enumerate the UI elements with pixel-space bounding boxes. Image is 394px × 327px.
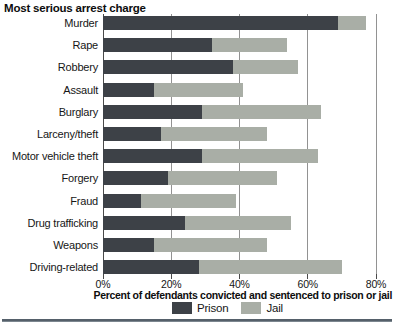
- bar-segment-jail: [154, 238, 267, 252]
- category-label: Rape: [0, 39, 103, 51]
- bar-segment-prison: [103, 171, 168, 185]
- bar-track: [103, 238, 394, 252]
- chart-row: Robbery: [0, 56, 394, 78]
- category-label: Driving-related: [0, 261, 103, 273]
- bar-segment-jail: [202, 105, 321, 119]
- legend-swatch-prison: [172, 302, 192, 314]
- category-label: Robbery: [0, 61, 103, 73]
- bar-track: [103, 127, 394, 141]
- category-label: Motor vehicle theft: [0, 150, 103, 162]
- bar-segment-jail: [338, 16, 365, 30]
- chart-row: Weapons: [0, 234, 394, 256]
- bar-segment-prison: [103, 260, 199, 274]
- chart-row: Driving-related: [0, 256, 394, 278]
- legend-swatch-jail: [241, 302, 261, 314]
- chart-row: Motor vehicle theft: [0, 145, 394, 167]
- bar-track: [103, 38, 394, 52]
- legend-item-jail: Jail: [241, 302, 282, 314]
- chart-row: Fraud: [0, 190, 394, 212]
- chart-row: Burglary: [0, 101, 394, 123]
- bar-track: [103, 149, 394, 163]
- chart-row: Forgery: [0, 167, 394, 189]
- bar-segment-jail: [233, 60, 298, 74]
- category-label: Larceny/theft: [0, 128, 103, 140]
- bar-segment-jail: [161, 127, 267, 141]
- bar-chart: Most serious arrest charge MurderRapeRob…: [0, 0, 394, 327]
- category-label: Assault: [0, 84, 103, 96]
- x-axis-title: Percent of defendants convicted and sent…: [0, 289, 392, 301]
- chart-row: Assault: [0, 79, 394, 101]
- category-label: Fraud: [0, 195, 103, 207]
- bar-segment-jail: [185, 216, 291, 230]
- bottom-rule: [2, 319, 392, 322]
- bar-segment-prison: [103, 16, 338, 30]
- bar-segment-jail: [202, 149, 318, 163]
- bar-segment-jail: [168, 171, 277, 185]
- category-label: Weapons: [0, 239, 103, 251]
- category-label: Drug trafficking: [0, 217, 103, 229]
- bar-segment-prison: [103, 149, 202, 163]
- chart-row: Murder: [0, 12, 394, 34]
- bar-track: [103, 216, 394, 230]
- bar-segment-prison: [103, 238, 154, 252]
- bar-segment-jail: [141, 194, 237, 208]
- legend-item-prison: Prison: [172, 302, 228, 314]
- plot-area: MurderRapeRobberyAssaultBurglaryLarceny/…: [0, 12, 394, 279]
- bar-segment-prison: [103, 83, 154, 97]
- chart-row: Larceny/theft: [0, 123, 394, 145]
- category-label: Burglary: [0, 106, 103, 118]
- bar-segment-prison: [103, 127, 161, 141]
- bar-segment-prison: [103, 194, 141, 208]
- legend: PrisonJail: [172, 302, 283, 314]
- bar-track: [103, 16, 394, 30]
- bar-track: [103, 194, 394, 208]
- legend-label: Jail: [266, 302, 282, 314]
- category-label: Murder: [0, 17, 103, 29]
- bar-segment-prison: [103, 38, 212, 52]
- chart-row: Drug trafficking: [0, 212, 394, 234]
- bar-segment-jail: [199, 260, 342, 274]
- bar-segment-prison: [103, 105, 202, 119]
- bar-track: [103, 171, 394, 185]
- bar-track: [103, 83, 394, 97]
- bar-segment-jail: [212, 38, 287, 52]
- bar-track: [103, 60, 394, 74]
- bar-segment-prison: [103, 60, 233, 74]
- bar-segment-jail: [154, 83, 243, 97]
- bar-track: [103, 105, 394, 119]
- bar-segment-prison: [103, 216, 185, 230]
- bar-track: [103, 260, 394, 274]
- category-label: Forgery: [0, 172, 103, 184]
- chart-row: Rape: [0, 34, 394, 56]
- legend-label: Prison: [197, 302, 228, 314]
- bar-rows: MurderRapeRobberyAssaultBurglaryLarceny/…: [0, 12, 394, 278]
